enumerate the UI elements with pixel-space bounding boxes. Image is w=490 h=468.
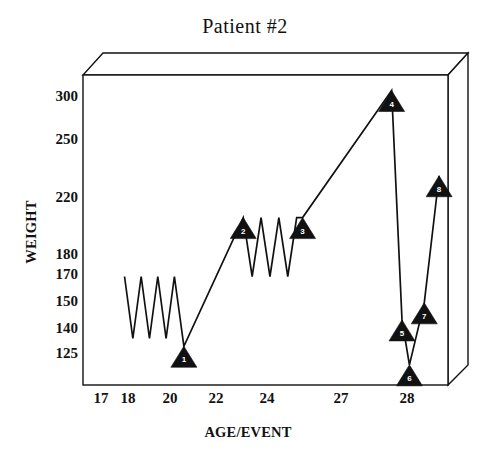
y-tick-140: 140 (56, 320, 79, 336)
marker-label-2: 2 (241, 227, 246, 236)
marker-label-4: 4 (389, 100, 394, 109)
y-tick-170: 170 (56, 266, 79, 282)
x-tick-27: 27 (334, 390, 350, 406)
y-tick-150: 150 (56, 293, 79, 309)
frame-top-face (83, 53, 468, 75)
x-tick-22: 22 (209, 390, 224, 406)
marker-label-5: 5 (400, 329, 405, 338)
y-tick-180: 180 (56, 246, 79, 262)
chart-container: Patient #2 300 250 220 180 170 150 140 1… (0, 0, 490, 468)
x-tick-24: 24 (260, 390, 276, 406)
x-tick-20: 20 (163, 390, 178, 406)
x-tick-28: 28 (400, 390, 415, 406)
x-tick-18: 18 (121, 390, 136, 406)
x-axis-tick-labels: 17 18 20 22 24 27 28 (94, 390, 415, 406)
y-tick-300: 300 (56, 88, 79, 104)
x-axis-title: AGE/EVENT (204, 424, 291, 440)
x-tick-17: 17 (94, 390, 110, 406)
marker-label-7: 7 (422, 312, 427, 321)
y-axis-tick-labels: 300 250 220 180 170 150 140 125 (56, 88, 79, 361)
patient-weight-chart: Patient #2 300 250 220 180 170 150 140 1… (0, 0, 490, 468)
marker-label-3: 3 (300, 227, 305, 236)
marker-label-1: 1 (182, 355, 187, 364)
frame-right-face (448, 53, 468, 385)
marker-label-8: 8 (437, 185, 442, 194)
y-tick-125: 125 (56, 345, 79, 361)
y-tick-250: 250 (56, 131, 79, 147)
marker-label-6: 6 (407, 374, 412, 383)
chart-title: Patient #2 (202, 15, 288, 37)
y-axis-title: WEIGHT (23, 200, 39, 263)
y-tick-220: 220 (56, 189, 79, 205)
